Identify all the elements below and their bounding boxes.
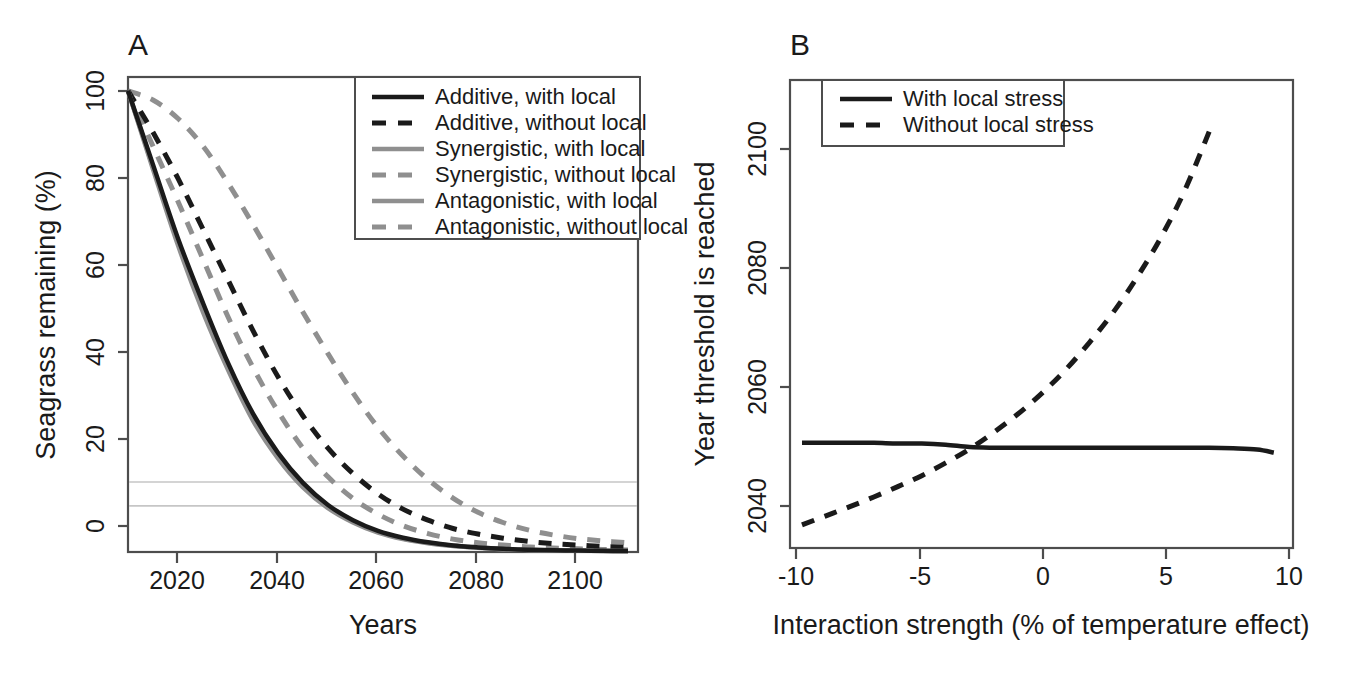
panel-b-xtick-10: 10 <box>1275 562 1303 590</box>
panel-b-y-tick-labels: 2100 2080 2060 2040 <box>743 121 771 534</box>
panel-b-ytick-2080: 2080 <box>743 240 771 296</box>
figure-container: A 100 80 60 40 20 0 Seagrass rema <box>0 0 1346 675</box>
panel-b: B 2100 2080 2060 2040 Year threshold is … <box>690 28 1309 640</box>
panel-a-ytick-40: 40 <box>81 338 109 366</box>
panel-b-x-ticks <box>796 548 1289 559</box>
panel-b-legend: With local stress Without local stress <box>822 80 1094 146</box>
panel-b-ytick-2060: 2060 <box>743 359 771 415</box>
panel-a-xtick-2020: 2020 <box>149 566 205 594</box>
panel-b-curves <box>802 132 1274 525</box>
panel-a-x-tick-labels: 2020 2040 2060 2080 2100 <box>149 566 603 594</box>
panel-a-ytick-80: 80 <box>81 164 109 192</box>
panel-b-xtick-neg10: -10 <box>778 562 814 590</box>
figure-svg: A 100 80 60 40 20 0 Seagrass rema <box>0 0 1346 675</box>
panel-b-xtick-0: 0 <box>1036 562 1050 590</box>
panel-b-y-ticks <box>780 149 790 506</box>
panel-a-label: A <box>128 28 148 61</box>
panel-a-legend-label-1: Additive, without local <box>435 110 647 135</box>
panel-b-plot-frame <box>790 80 1293 548</box>
panel-a-xtick-2100: 2100 <box>547 566 603 594</box>
panel-a-ytick-100: 100 <box>81 70 109 112</box>
series-line <box>802 132 1209 525</box>
panel-a-xtick-2040: 2040 <box>249 566 305 594</box>
panel-b-ytick-2040: 2040 <box>743 478 771 534</box>
panel-b-xtick-neg5: -5 <box>909 562 931 590</box>
panel-b-label: B <box>790 28 810 61</box>
panel-b-y-axis-title: Year threshold is reached <box>690 161 720 466</box>
panel-a-xtick-2060: 2060 <box>348 566 404 594</box>
panel-a-x-ticks <box>177 552 575 563</box>
panel-a-ytick-20: 20 <box>81 425 109 453</box>
panel-a-legend: Additive, with local Additive, without l… <box>355 77 688 239</box>
panel-b-x-tick-labels: -10 -5 0 5 10 <box>778 562 1303 590</box>
panel-a-ytick-60: 60 <box>81 251 109 279</box>
panel-b-legend-label-0: With local stress <box>903 86 1063 111</box>
panel-b-legend-label-1: Without local stress <box>903 112 1094 137</box>
panel-b-ytick-2100: 2100 <box>743 121 771 177</box>
panel-a-legend-label-5: Antagonistic, without local <box>435 214 688 239</box>
panel-a-legend-label-0: Additive, with local <box>435 84 616 109</box>
panel-a-xtick-2080: 2080 <box>448 566 504 594</box>
panel-a: A 100 80 60 40 20 0 Seagrass rema <box>31 28 688 640</box>
series-line <box>802 443 1274 453</box>
panel-a-legend-label-4: Antagonistic, with local <box>435 188 658 213</box>
panel-a-y-axis-title: Seagrass remaining (%) <box>31 170 61 460</box>
panel-a-y-tick-labels: 100 80 60 40 20 0 <box>81 70 109 533</box>
panel-a-ytick-0: 0 <box>81 519 109 533</box>
panel-a-legend-label-2: Synergistic, with local <box>435 136 645 161</box>
panel-b-xtick-5: 5 <box>1159 562 1173 590</box>
panel-a-y-ticks <box>118 91 128 526</box>
panel-a-legend-label-3: Synergistic, without local <box>435 162 676 187</box>
panel-b-x-axis-title: Interaction strength (% of temperature e… <box>773 610 1310 640</box>
panel-a-x-axis-title: Years <box>349 610 417 640</box>
